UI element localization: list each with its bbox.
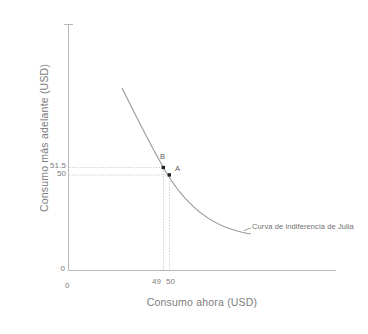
indifference-curve bbox=[122, 88, 251, 234]
data-point-label-b: B bbox=[160, 152, 165, 161]
curve-label-leader-line bbox=[244, 228, 251, 231]
x-tick-label-0: 0 bbox=[65, 281, 70, 290]
y-axis-title: Consumo más adelante (USD) bbox=[38, 43, 50, 233]
curve-annotation-label: Curva de indiferencia de Julia bbox=[252, 222, 354, 231]
chart-figure: Consumo más adelante (USD) Consumo ahora… bbox=[0, 0, 368, 334]
data-point-a bbox=[168, 173, 171, 176]
x-axis-title: Consumo ahora (USD) bbox=[62, 296, 342, 308]
data-point-b bbox=[162, 166, 165, 169]
y-tick-label-50: 50 bbox=[57, 169, 66, 178]
data-point-label-a: A bbox=[175, 164, 180, 173]
y-tick-label-0: 0 bbox=[60, 264, 65, 273]
x-tick-label-49: 49 bbox=[152, 277, 161, 286]
x-tick-label-50: 50 bbox=[166, 277, 175, 286]
